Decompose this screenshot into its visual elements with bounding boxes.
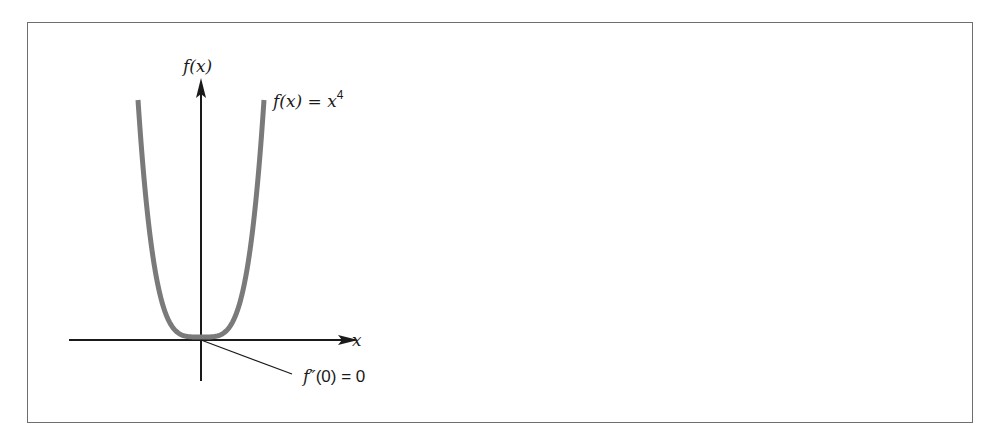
y-axis-label: f(x) xyxy=(181,56,212,76)
curve-label-exponent: 4 xyxy=(337,88,344,102)
annotation-leader-line xyxy=(201,340,292,374)
curve-label: f(x) = x4 xyxy=(271,88,344,111)
curve-label-lhs: f(x) = x xyxy=(271,91,337,111)
figure-svg: f(x) x f(x) = x4 f″(0) = 0 xyxy=(0,0,985,437)
annotation-rhs: (0) = 0 xyxy=(316,367,366,386)
annotation-label: f″(0) = 0 xyxy=(301,366,365,386)
x-axis-label-text: x xyxy=(352,330,362,350)
x-axis-label: x xyxy=(352,330,362,350)
annotation-lhs: f″ xyxy=(301,366,316,386)
